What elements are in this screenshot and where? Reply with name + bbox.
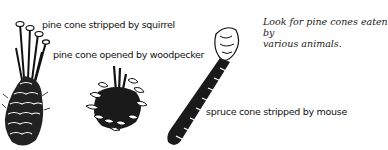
- woodpecker-opened-pine-cone-illustration: [84, 64, 148, 134]
- mouse-stripped-spruce-cone-illustration: [162, 24, 242, 150]
- woodpecker-cone-label: pine cone opened by woodpecker: [53, 49, 204, 60]
- mouse-cone-label: spruce cone stripped by mouse: [206, 106, 347, 117]
- squirrel-stripped-pine-cone-illustration: [2, 18, 58, 150]
- caption: Look for pine cones eaten by various ani…: [263, 16, 388, 49]
- caption-line-1: Look for pine cones eaten by: [263, 16, 388, 38]
- squirrel-cone-label: pine cone stripped by squirrel: [42, 19, 175, 30]
- caption-line-2: various animals.: [263, 38, 388, 49]
